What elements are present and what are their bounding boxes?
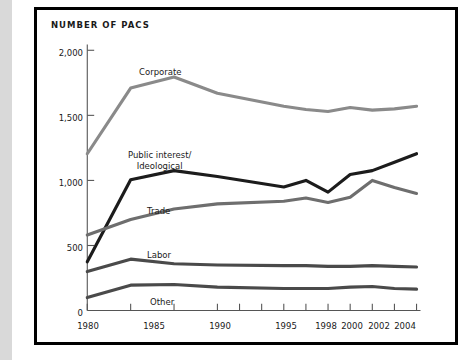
x-tick-label-1980: 1980 [70,321,106,331]
page-gutter [0,0,12,360]
series-label-trade: Trade [147,206,170,217]
x-tick-label-1990: 1990 [202,321,238,331]
x-tick-label-2004: 2004 [387,321,423,331]
chart-series [87,77,416,298]
x-tick-label-1985: 1985 [136,321,172,331]
series-label-corporate: Corporate [139,67,182,78]
y-tick-label-2000: 2,000 [45,48,83,58]
y-tick-label-500: 500 [45,243,83,253]
y-tick-label-0: 0 [45,308,83,318]
series-label-public-interest: Public interest/ Ideological [128,150,191,171]
line-chart [37,10,455,342]
series-label-public-interest-line1: Public interest/ [128,150,191,160]
page-background: NUMBER OF PACS 2,000 1,500 1,000 500 0 1… [12,0,459,360]
y-tick-label-1000: 1,000 [45,178,83,188]
x-tick-label-1995: 1995 [268,321,304,331]
chart-panel: NUMBER OF PACS 2,000 1,500 1,000 500 0 1… [34,7,458,345]
series-label-public-interest-line2: Ideological [128,161,191,172]
series-label-labor: Labor [147,250,171,261]
y-tick-label-1500: 1,500 [45,113,83,123]
series-label-other: Other [150,297,174,308]
